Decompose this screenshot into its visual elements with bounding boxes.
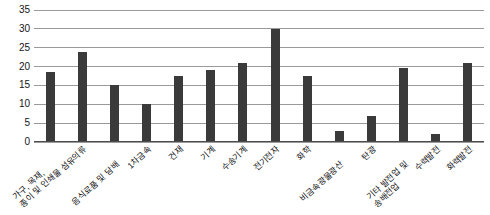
bar-slot bbox=[259, 10, 291, 142]
y-axis-tick-label: 25 bbox=[4, 43, 30, 53]
bar[interactable] bbox=[399, 68, 408, 142]
bar-slot bbox=[98, 10, 130, 142]
x-axis-labels: 가구, 목재,종이 및 인쇄물섬유의류음식료품 및 담배1차금속건재기계수송기계… bbox=[34, 143, 484, 215]
x-axis-tick-label: 화력발전 bbox=[444, 144, 475, 173]
x-axis-tick-label: 수력발전 bbox=[412, 144, 443, 173]
y-axis-tick-label: 20 bbox=[4, 62, 30, 72]
x-axis-tick-label: 화학 bbox=[295, 144, 314, 162]
x-axis-tick-label: 가구, 목재,종이 및 인쇄물 bbox=[11, 159, 64, 209]
y-axis-tick-label: 15 bbox=[4, 80, 30, 90]
bar-slot bbox=[227, 10, 259, 142]
x-axis-baseline bbox=[34, 141, 484, 142]
bar[interactable] bbox=[78, 52, 87, 143]
y-axis-tick-label: 30 bbox=[4, 24, 30, 34]
bar-slot bbox=[355, 10, 387, 142]
bar[interactable] bbox=[463, 63, 472, 142]
x-axis-tick-label: 비금속광물광산 bbox=[298, 159, 346, 204]
plot-area: 05101520253035 bbox=[34, 10, 484, 142]
bar-slot bbox=[388, 10, 420, 142]
x-axis-tick-label: 기타 발전업 및송배전업 bbox=[364, 159, 417, 209]
bar[interactable] bbox=[142, 104, 151, 142]
y-axis-tick-label: 5 bbox=[4, 118, 30, 128]
bar-slot bbox=[163, 10, 195, 142]
x-axis-tick-label: 음식료품 및 담배 bbox=[69, 159, 121, 207]
y-axis-tick-label: 0 bbox=[4, 137, 30, 147]
bar-slot bbox=[195, 10, 227, 142]
x-axis-tick-label: 기계 bbox=[199, 144, 218, 162]
bar-slot bbox=[452, 10, 484, 142]
bar-slot bbox=[66, 10, 98, 142]
bar[interactable] bbox=[110, 85, 119, 142]
y-axis-tick-label: 35 bbox=[4, 5, 30, 15]
bar[interactable] bbox=[303, 76, 312, 142]
bar-slot bbox=[420, 10, 452, 142]
bar[interactable] bbox=[238, 63, 247, 142]
bar[interactable] bbox=[46, 72, 55, 142]
bar-chart: 05101520253035 가구, 목재,종이 및 인쇄물섬유의류음식료품 및… bbox=[0, 0, 490, 215]
x-axis-tick-label: 수송기계 bbox=[219, 144, 250, 173]
x-axis-tick-label: 1차금속 bbox=[125, 144, 153, 171]
y-axis-tick-label: 10 bbox=[4, 99, 30, 109]
x-axis-tick-label: 건재 bbox=[167, 144, 186, 162]
bar-slot bbox=[34, 10, 66, 142]
bar-slot bbox=[130, 10, 162, 142]
bar[interactable] bbox=[271, 29, 280, 142]
x-axis-tick-label: 탄광 bbox=[360, 144, 379, 162]
bar[interactable] bbox=[367, 116, 376, 142]
bar-slot bbox=[291, 10, 323, 142]
bar-slot bbox=[323, 10, 355, 142]
bar[interactable] bbox=[206, 70, 215, 142]
x-axis-tick-label: 섬유의류 bbox=[58, 144, 89, 173]
x-axis-tick-label: 전기전자 bbox=[251, 144, 282, 173]
bar[interactable] bbox=[174, 76, 183, 142]
bar-series bbox=[34, 10, 484, 142]
